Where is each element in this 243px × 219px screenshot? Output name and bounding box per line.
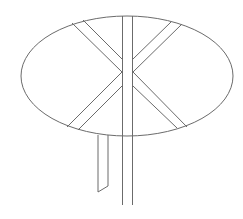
background [0, 0, 243, 219]
sign-diagram [0, 0, 243, 219]
